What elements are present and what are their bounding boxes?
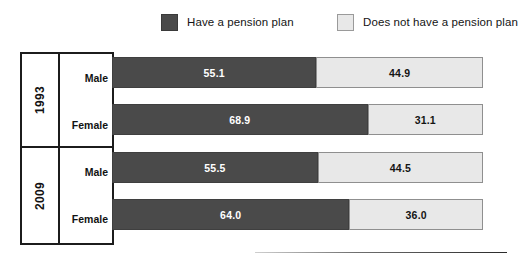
legend-label-have-pension-plan: Have a pension plan [187,16,294,28]
gender-label-female: Female [72,213,108,225]
legend-item-have-pension-plan: Have a pension plan [161,10,294,34]
gender-cell-2009-male: Male [60,148,112,195]
bar-segment-have: 68.9 [112,104,368,135]
legend-swatch-light-icon [337,14,354,31]
bar-segment-have: 64.0 [112,199,349,230]
bar-segment-not-have: 44.5 [318,152,483,183]
bar-row: 55.1 44.9 [112,57,483,88]
year-group-2009: 2009 Male Female [22,148,112,243]
year-label-1993: 1993 [33,86,47,114]
year-cell-1993: 1993 [22,54,60,146]
chart-legend: Have a pension plan Does not have a pens… [0,10,507,34]
gender-cell-2009-female: Female [60,195,112,242]
bar-segment-not-have: 36.0 [349,199,483,230]
year-group-1993: 1993 Male Female [22,54,112,148]
bar-segment-have: 55.5 [112,152,318,183]
legend-swatch-dark-icon [161,14,178,31]
page-divider-rule [255,252,507,253]
gender-cell-1993-male: Male [60,54,112,101]
gender-label-male: Male [85,72,108,84]
year-label-2009: 2009 [33,182,47,210]
bar-segment-have: 55.1 [112,57,316,88]
legend-item-does-not-have-pension-plan: Does not have a pension plan [337,10,518,34]
gender-label-male: Male [85,166,108,178]
legend-label-does-not-have-pension-plan: Does not have a pension plan [363,16,518,28]
bar-segment-not-have: 44.9 [316,57,483,88]
bar-row: 68.9 31.1 [112,104,483,135]
bar-segment-not-have: 31.1 [368,104,483,135]
row-header-table: 1993 Male Female 2009 Male Female [20,52,114,245]
bar-row: 64.0 36.0 [112,199,483,230]
gender-label-female: Female [72,119,108,131]
year-cell-2009: 2009 [22,148,60,243]
bar-row: 55.5 44.5 [112,152,483,183]
gender-cell-1993-female: Female [60,101,112,148]
